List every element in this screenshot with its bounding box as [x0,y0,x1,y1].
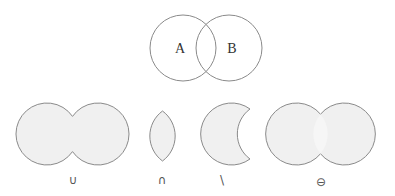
venn-diagram: A B [150,15,262,81]
intersection-label: ∩ [158,173,167,187]
set-b-label: B [227,41,236,56]
difference-label: \ [220,173,225,187]
difference-shape: \ [201,103,250,187]
union-label: ∪ [69,173,78,187]
intersection-region [150,111,175,161]
set-operations-diagram: A B ∪ ∩ \ ⊖ [0,0,395,196]
set-a-label: A [175,41,186,56]
union-region [16,103,129,165]
symmetric-difference-shape: ⊖ [266,103,376,189]
difference-region [201,103,250,165]
union-shape: ∪ [16,103,129,187]
symmetric-difference-label: ⊖ [316,175,326,189]
intersection-shape: ∩ [150,111,175,187]
